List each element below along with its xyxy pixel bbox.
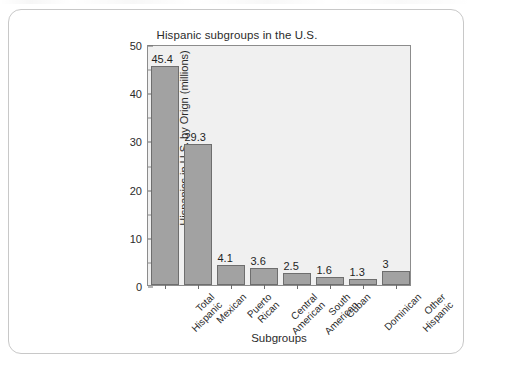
x-category-label: Central American	[282, 292, 327, 337]
y-tick-label: 20	[130, 185, 142, 197]
bar-value-label: 1.6	[317, 264, 332, 276]
x-tick-mark	[231, 285, 232, 289]
x-tick-mark	[264, 285, 265, 289]
bar[interactable]: 1.6	[316, 277, 344, 285]
x-axis-label: Subgroups	[147, 332, 411, 344]
bar[interactable]: 2.5	[283, 273, 311, 285]
x-category-label: Dominican	[382, 292, 423, 333]
bar-value-label: 4.1	[218, 252, 233, 264]
x-tick-mark	[363, 285, 364, 289]
y-tick-label: 50	[130, 40, 142, 52]
chart-title: Hispanic subgroups in the U.S.	[9, 29, 465, 41]
bar-value-label: 2.5	[284, 260, 299, 272]
y-tick-label: 30	[130, 136, 142, 148]
bar-value-label: 1.3	[350, 266, 365, 278]
x-category-label: Puerto Rican	[245, 292, 281, 328]
bar-value-label: 29.3	[185, 131, 206, 143]
scan-artifact-band	[0, 0, 514, 4]
bar[interactable]: 45.4	[151, 66, 179, 285]
bar-value-label: 3.6	[251, 255, 266, 267]
x-tick-mark	[297, 285, 298, 289]
figure-card: Hispanic subgroups in the U.S. Hispanics…	[8, 9, 464, 354]
x-tick-mark	[165, 285, 166, 289]
y-tick-label: 10	[130, 233, 142, 245]
y-tick-label: 40	[130, 88, 142, 100]
y-tick-mark	[148, 287, 153, 288]
bar-value-label: 3	[383, 258, 389, 270]
bar[interactable]: 4.1	[217, 265, 245, 285]
bar[interactable]: 3	[382, 271, 410, 285]
plot-area: Hispanics in U.S. by Orign (millions) 01…	[147, 45, 411, 286]
x-tick-mark	[198, 285, 199, 289]
bar-value-label: 45.4	[152, 53, 173, 65]
x-tick-mark	[396, 285, 397, 289]
bar[interactable]: 29.3	[184, 144, 212, 285]
bar[interactable]: 3.6	[250, 268, 278, 285]
y-tick-mark	[148, 46, 153, 47]
y-tick-label: 0	[136, 281, 142, 293]
x-tick-mark	[330, 285, 331, 289]
